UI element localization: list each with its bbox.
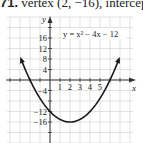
y-tick-label: −12 xyxy=(34,107,47,117)
x-tick-label: 5 xyxy=(98,82,102,92)
x-tick-label: 2 xyxy=(68,82,72,92)
x-axis-label: x xyxy=(131,83,136,93)
curve-arrow-right-icon xyxy=(115,57,120,64)
y-tick-label: −16 xyxy=(34,117,47,127)
equation-label: y = x² − 4x − 12 xyxy=(63,29,118,39)
y-tick-label: 12 xyxy=(39,44,48,54)
curve-arrow-left-icon xyxy=(20,57,25,64)
y-tick-label: 8 xyxy=(43,54,47,64)
x-axis-arrow-icon xyxy=(129,78,136,83)
parabola-graph: x y 12345 161284−4−12−16 y = x² − 4x − 1… xyxy=(0,0,143,143)
x-tick-label: 1 xyxy=(58,82,62,92)
y-tick-label: 16 xyxy=(39,33,48,43)
y-axis-label: y xyxy=(41,14,46,24)
x-tick-label: 3 xyxy=(78,82,82,92)
y-tick-label: −4 xyxy=(38,86,48,96)
x-tick-label: 4 xyxy=(88,82,93,92)
